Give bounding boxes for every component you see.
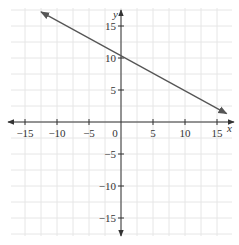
x-tick-label: −10 — [48, 127, 66, 139]
x-tick-label: −15 — [16, 127, 34, 139]
y-tick-label: 5 — [111, 84, 117, 96]
y-axis-label: y — [112, 8, 118, 20]
x-tick-label: 5 — [150, 127, 156, 139]
x-tick-label: 15 — [212, 127, 224, 139]
y-tick-label: −10 — [99, 180, 117, 192]
plotted-line — [41, 12, 227, 114]
x-tick-label: 0 — [112, 127, 118, 139]
y-tick-label: 10 — [105, 52, 117, 64]
x-tick-label: −5 — [83, 127, 95, 139]
x-axis-label: x — [226, 122, 232, 134]
line-series — [41, 12, 227, 114]
y-tick-label: −5 — [104, 148, 116, 160]
x-tick-label: 10 — [180, 127, 192, 139]
coordinate-plane: −15−10−5051015−15−10−551015 x y — [0, 0, 239, 245]
y-tick-label: −15 — [99, 212, 117, 224]
y-tick-label: 15 — [105, 20, 117, 32]
